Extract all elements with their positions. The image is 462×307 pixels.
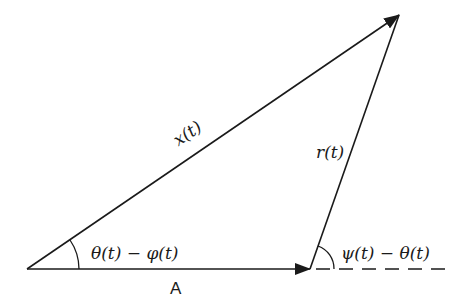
label-a: A bbox=[170, 280, 181, 297]
angle-arc-origin bbox=[70, 240, 79, 269]
label-angle-base: ψ(t) − θ(t) bbox=[341, 245, 430, 262]
vector-diagram: x(t) r(t) A θ(t) − φ(t) ψ(t) − θ(t) bbox=[0, 0, 462, 307]
label-angle-origin: θ(t) − φ(t) bbox=[91, 245, 178, 262]
angle-arc-base bbox=[318, 246, 334, 269]
label-r: r(t) bbox=[316, 144, 344, 161]
